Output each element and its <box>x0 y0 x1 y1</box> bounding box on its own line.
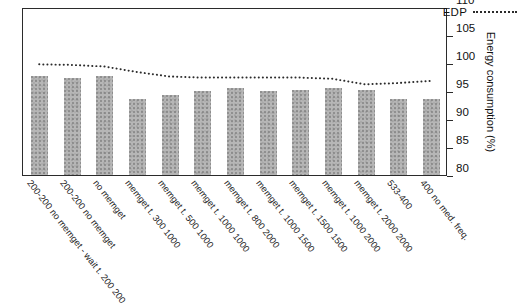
plot-area <box>22 8 447 176</box>
y-axis-tick-label: 85 <box>456 134 469 146</box>
bar <box>260 91 277 175</box>
y-axis-tick-label: 110 <box>456 0 474 6</box>
bar <box>227 88 244 175</box>
x-axis-tick-label: memget t. 300 1000 <box>124 178 183 250</box>
y-axis-tick <box>447 64 453 65</box>
y-axis-tick <box>447 148 453 149</box>
x-axis-tick-label: memget t. 1500 1500 <box>287 178 350 254</box>
bar <box>390 99 407 175</box>
x-axis-tick-label: 400 no med. freq. <box>418 178 471 242</box>
bar <box>292 90 309 175</box>
y-axis-tick-label: 105 <box>456 22 475 34</box>
bar <box>325 88 342 175</box>
x-axis-tick-label: memget t. 800 2000 <box>222 178 281 250</box>
y-axis-tick-label: 100 <box>456 50 475 62</box>
x-axis-tick-label: memget t. 2000 2000 <box>352 178 415 254</box>
x-axis-tick-label: 533-400 <box>385 178 414 211</box>
y-axis-tick-label: 95 <box>456 78 469 90</box>
bar <box>96 76 113 175</box>
x-axis-tick-label: memget t. 1000 1000 <box>189 178 252 254</box>
y-axis-tick <box>447 36 453 37</box>
x-axis-tick-label: no memget <box>91 178 128 221</box>
bar <box>129 99 146 175</box>
bar <box>194 91 211 175</box>
y-axis-ticks <box>447 8 455 176</box>
y-axis-title: Energy consumption (%) <box>479 8 497 176</box>
bar <box>162 95 179 175</box>
x-axis-tick-labels: 200-200 no memget - wait t. 200 200200-2… <box>0 176 527 273</box>
y-axis-tick-label: 90 <box>456 106 469 118</box>
x-axis-tick-label: memget t. 1000 2000 <box>320 178 383 254</box>
y-axis-tick <box>447 120 453 121</box>
bar <box>31 76 48 175</box>
y-axis-tick-label: 80 <box>456 162 469 174</box>
bar <box>64 78 81 175</box>
x-axis-tick-label: 200-200 no memget <box>58 178 118 250</box>
bar <box>358 90 375 175</box>
bar-series <box>23 9 446 175</box>
x-axis-tick-label: memget t. 1000 1500 <box>254 178 317 254</box>
bar <box>423 99 440 175</box>
y-axis-tick <box>447 92 453 93</box>
